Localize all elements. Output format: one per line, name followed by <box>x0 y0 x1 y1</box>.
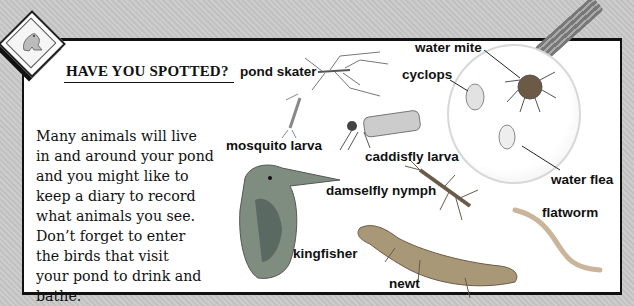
caddisfly-larva-illustration <box>340 110 421 150</box>
pond-skater-illustration <box>305 52 388 96</box>
label-water-flea: water flea <box>551 172 613 187</box>
label-caddisfly-larva: caddisfly larva <box>365 149 459 164</box>
cyclops-illustration <box>450 80 484 110</box>
label-damselfly-nymph: damselfly nymph <box>326 183 436 198</box>
newt-illustration <box>358 226 517 298</box>
mosquito-larva-illustration <box>282 94 300 138</box>
label-water-mite: water mite <box>415 40 482 55</box>
label-pond-skater: pond skater <box>240 64 317 79</box>
water-mite-illustration <box>484 50 556 112</box>
water-flea-illustration <box>499 125 560 170</box>
label-newt: newt <box>389 276 420 291</box>
label-kingfisher: kingfisher <box>293 246 358 261</box>
label-cyclops: cyclops <box>402 67 452 82</box>
label-mosquito-larva: mosquito larva <box>226 138 322 153</box>
label-flatworm: flatworm <box>542 205 598 220</box>
kingfisher-illustration <box>240 165 340 278</box>
